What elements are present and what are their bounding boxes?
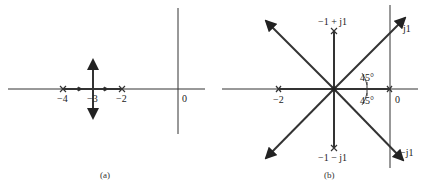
tick-minus-4: −4 xyxy=(57,94,68,104)
panel-a-label: (a) xyxy=(100,170,110,180)
angle-upper-label: 45° xyxy=(360,73,374,83)
panel-b-plot xyxy=(222,5,418,168)
asymptote-upper-label: j1 xyxy=(403,24,411,34)
panel-b-label: (b) xyxy=(324,170,335,180)
asymptote-lower-label: −j1 xyxy=(400,148,413,158)
angle-lower-label: 45° xyxy=(360,96,374,106)
pole-upper-label: −1 + j1 xyxy=(318,17,347,27)
tick-minus-2-b: −2 xyxy=(273,95,284,105)
panel-a-plot xyxy=(8,8,205,134)
tick-zero-a: 0 xyxy=(182,94,187,104)
tick-minus-3: −3 xyxy=(87,94,98,104)
pole-lower-label: −1 − j1 xyxy=(318,153,347,163)
tick-zero-b: 0 xyxy=(395,95,400,105)
tick-minus-2: −2 xyxy=(116,94,127,104)
